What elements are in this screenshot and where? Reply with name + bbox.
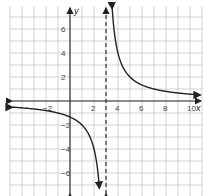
curve-right-branch	[112, 9, 200, 95]
y-tick-label: −4	[61, 145, 71, 154]
y-tick-label: 4	[61, 49, 66, 58]
y-tick-label: −2	[61, 121, 71, 130]
x-tick-label: 4	[115, 104, 120, 113]
x-axis-label: x	[195, 103, 201, 113]
x-tick-label: 8	[163, 104, 168, 113]
y-tick-label: 2	[61, 73, 66, 82]
y-axis-label: y	[73, 6, 79, 16]
y-tick-label: 6	[61, 25, 66, 34]
y-tick-label: −6	[61, 169, 71, 178]
curve-left-branch	[12, 107, 99, 188]
x-tick-label: 2	[91, 104, 96, 113]
graph: −2246810642−2−4−6xy	[0, 0, 203, 196]
x-tick-label: 6	[139, 104, 144, 113]
